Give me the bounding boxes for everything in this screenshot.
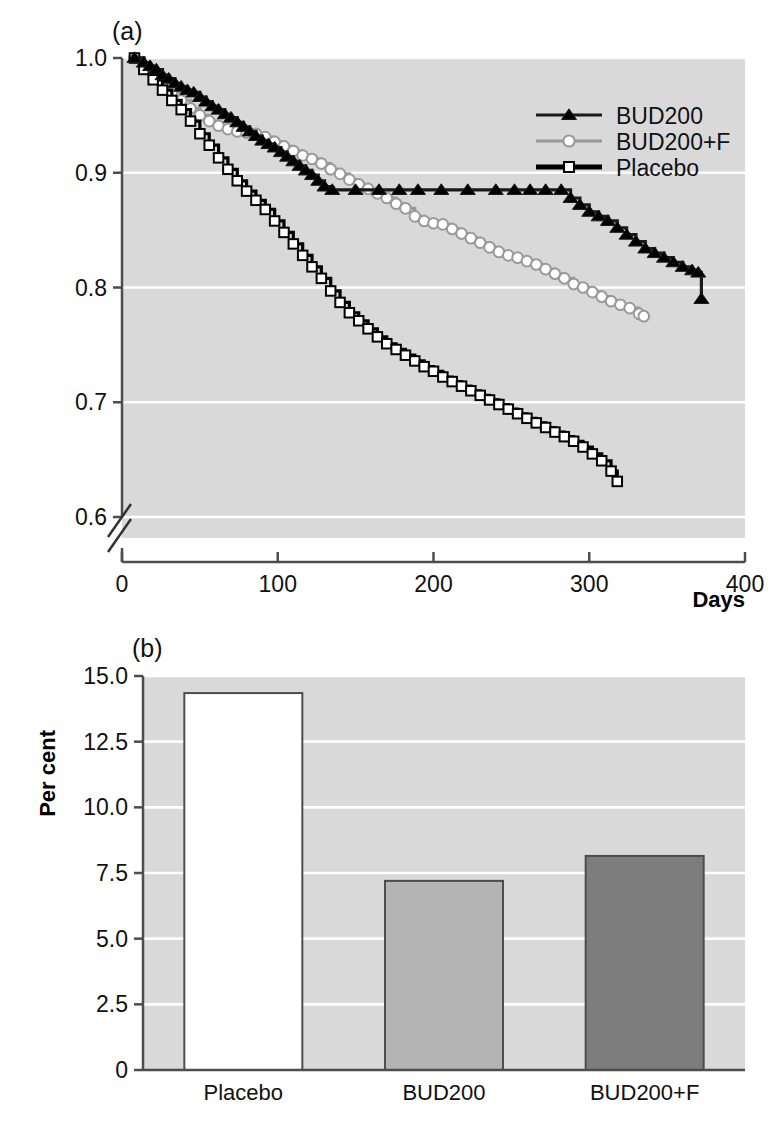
marker-square (438, 372, 448, 382)
marker-square (279, 228, 289, 238)
marker-square (569, 437, 579, 447)
marker-square (195, 129, 205, 139)
panel-a: (a) 0.60.70.80.91.0 0100200300400 Days B… (75, 17, 764, 612)
marker-square (326, 286, 336, 296)
y-tick-label: 2.5 (96, 991, 128, 1017)
marker-square (289, 239, 299, 249)
marker-square (522, 414, 532, 424)
panel-b-label: (b) (132, 634, 163, 662)
marker-square (457, 381, 467, 391)
marker-square (550, 427, 560, 437)
marker-square (214, 153, 224, 163)
marker-square (335, 298, 345, 308)
marker-square (345, 308, 355, 318)
marker-square (223, 165, 233, 175)
y-tick-label: 0.6 (75, 504, 107, 530)
x-tick-label: 0 (116, 571, 129, 597)
y-tick-label: 15.0 (83, 663, 128, 689)
y-tick-label: 1.0 (75, 45, 107, 71)
marker-square (317, 274, 327, 284)
marker-square (270, 216, 280, 226)
marker-square (261, 205, 271, 215)
marker-square (597, 456, 607, 466)
marker-square (513, 409, 523, 419)
marker-square (373, 332, 383, 342)
y-tick-label: 10.0 (83, 794, 128, 820)
marker-square (354, 316, 364, 326)
legend-label-0: BUD200 (616, 103, 703, 129)
marker-square (167, 96, 177, 106)
marker-square (485, 395, 495, 405)
y-tick-label: 7.5 (96, 860, 128, 886)
marker-square (606, 466, 616, 476)
marker-square (410, 356, 420, 366)
marker-square (186, 116, 196, 126)
panel-b-y-axis-title: Per cent (35, 729, 60, 816)
y-tick-label: 0 (115, 1057, 128, 1083)
marker-square (560, 432, 570, 442)
marker-square (447, 377, 457, 387)
marker-square (401, 350, 411, 360)
y-tick-label: 0.7 (75, 389, 107, 415)
marker-square (419, 362, 429, 372)
marker-square (504, 404, 514, 414)
marker-square (429, 367, 439, 377)
marker-square (233, 176, 243, 186)
marker-circle (638, 311, 649, 322)
bar-placebo (184, 693, 302, 1070)
marker-square (475, 391, 485, 401)
x-tick-label: 200 (414, 571, 452, 597)
marker-square (242, 186, 252, 196)
bar-bud200 (385, 881, 503, 1070)
marker-circle (400, 203, 411, 214)
marker-square (564, 162, 574, 172)
category-label-0: Placebo (204, 1080, 284, 1105)
legend-label-2: Placebo (616, 155, 699, 181)
y-tick-label: 0.8 (75, 275, 107, 301)
marker-square (391, 345, 401, 355)
marker-square (204, 140, 214, 150)
marker-square (588, 449, 598, 459)
y-tick-label: 0.9 (75, 160, 107, 186)
marker-square (494, 400, 504, 410)
marker-square (466, 386, 476, 396)
marker-square (613, 477, 623, 487)
y-tick-label: 12.5 (83, 729, 128, 755)
marker-square (251, 196, 261, 206)
legend-label-1: BUD200+F (616, 129, 730, 155)
y-tick-label: 5.0 (96, 926, 128, 952)
marker-circle (563, 135, 574, 146)
panel-a-x-axis-title: Days (692, 587, 745, 612)
marker-square (307, 262, 317, 272)
x-tick-label: 100 (259, 571, 297, 597)
marker-square (363, 324, 373, 334)
marker-square (578, 442, 588, 452)
marker-square (541, 423, 551, 433)
panel-b-category-labels: PlaceboBUD200BUD200+F (204, 1080, 700, 1105)
panel-a-label: (a) (112, 17, 143, 45)
marker-square (382, 339, 392, 349)
marker-square (532, 418, 542, 428)
category-label-2: BUD200+F (590, 1080, 699, 1105)
x-tick-label: 300 (570, 571, 608, 597)
marker-square (158, 85, 168, 95)
figure-root: (a) 0.60.70.80.91.0 0100200300400 Days B… (0, 0, 784, 1131)
marker-square (176, 105, 186, 115)
marker-square (298, 251, 308, 261)
bar-bud200-plus-f (586, 856, 704, 1070)
category-label-1: BUD200 (402, 1080, 485, 1105)
